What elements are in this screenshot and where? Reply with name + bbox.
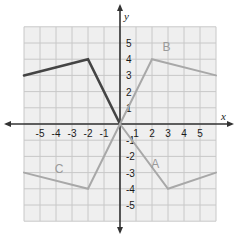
x-tick-label: -4 xyxy=(52,128,61,139)
label-curve-b: B xyxy=(162,40,170,54)
label-curve-a: A xyxy=(151,157,159,171)
x-tick-label: 4 xyxy=(181,128,187,139)
y-tick-label: 4 xyxy=(126,54,132,65)
x-axis-label: x xyxy=(220,110,226,122)
y-tick-label: -2 xyxy=(126,151,135,162)
x-tick-label: -1 xyxy=(100,128,109,139)
y-tick-label: 3 xyxy=(126,70,132,81)
y-tick-label: -5 xyxy=(126,200,135,211)
y-tick-label: -4 xyxy=(126,184,135,195)
y-tick-label: 2 xyxy=(126,87,132,98)
y-tick-label: 5 xyxy=(126,38,132,49)
label-curve-c: C xyxy=(55,162,64,176)
x-tick-label: -2 xyxy=(84,128,93,139)
y-axis-down-arrow-icon xyxy=(117,227,123,234)
x-axis-left-arrow-icon xyxy=(4,121,11,127)
y-tick-label: -3 xyxy=(126,168,135,179)
x-tick-label: 2 xyxy=(149,128,155,139)
x-tick-label: -5 xyxy=(36,128,45,139)
x-axis-right-arrow-icon xyxy=(227,121,234,127)
x-tick-label: -3 xyxy=(68,128,77,139)
x-tick-label: 3 xyxy=(165,128,171,139)
coordinate-plane: -5-4-3-2-11234554321-1-2-3-4-5 BAC x y xyxy=(0,0,241,236)
y-axis-label: y xyxy=(123,10,129,22)
y-axis-up-arrow-icon xyxy=(117,4,123,11)
x-tick-label: 5 xyxy=(197,128,203,139)
